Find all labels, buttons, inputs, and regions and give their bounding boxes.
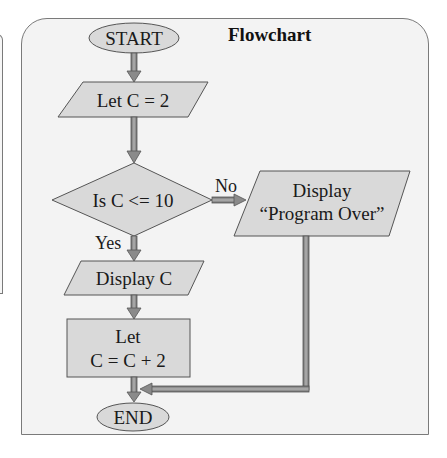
no-branch-label: No: [215, 176, 237, 196]
increment-line1: Let: [115, 326, 141, 347]
arrow-down-icon: [127, 295, 141, 319]
display-over-line1: Display: [292, 180, 352, 201]
increment-line2: C = C + 2: [90, 350, 165, 371]
init-node: Let C = 2: [58, 82, 208, 117]
display-program-over-node: Display “Program Over”: [234, 171, 410, 236]
arrow-down-icon: [127, 236, 141, 261]
display-c-node: Display C: [64, 261, 204, 295]
increment-node: Let C = C + 2: [67, 319, 190, 377]
decision-node: Is C <= 10: [52, 163, 212, 236]
arrow-down-icon: [127, 377, 141, 402]
arrow-down-icon: [127, 117, 141, 163]
display-c-label: Display C: [96, 268, 173, 289]
flowchart-canvas: START Let C = 2 Is C <= 10 No Display “P…: [0, 0, 447, 458]
start-node: START: [89, 23, 179, 53]
end-node: END: [97, 403, 169, 431]
decision-label: Is C <= 10: [92, 190, 173, 211]
start-label: START: [105, 28, 163, 49]
init-label: Let C = 2: [97, 90, 169, 111]
yes-branch-label: Yes: [95, 233, 121, 253]
arrow-down-icon: [127, 53, 141, 82]
display-over-line2: “Program Over”: [259, 203, 384, 224]
end-label: END: [113, 407, 152, 428]
